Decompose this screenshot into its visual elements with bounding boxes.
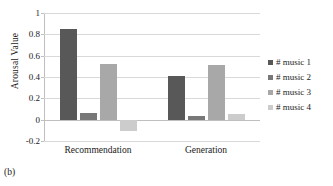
bar — [168, 76, 185, 120]
gridline — [44, 141, 260, 142]
y-tick-mark — [41, 13, 44, 14]
y-tick-label: 1 — [36, 9, 41, 18]
bar — [228, 114, 245, 120]
legend-label: # music 4 — [276, 103, 311, 112]
bar — [188, 116, 205, 120]
legend-item[interactable]: # music 2 — [268, 70, 332, 85]
y-tick-mark — [41, 141, 44, 142]
y-tick-label: -0.2 — [26, 137, 40, 146]
y-tick-mark — [41, 77, 44, 78]
y-tick-label: 0.4 — [29, 73, 40, 82]
legend-item[interactable]: # music 4 — [268, 100, 332, 115]
bar — [100, 64, 117, 119]
y-tick-label: 0.2 — [29, 94, 40, 103]
y-tick-mark — [41, 120, 44, 121]
legend-swatch-icon — [268, 105, 273, 110]
y-axis-title: Arousal Value — [9, 17, 21, 105]
y-tick-label: 0 — [36, 115, 41, 124]
y-tick-mark — [41, 56, 44, 57]
legend-label: # music 3 — [276, 88, 311, 97]
cropped-title — [30, 0, 230, 4]
legend-swatch-icon — [268, 60, 273, 65]
legend-label: # music 1 — [276, 58, 311, 67]
legend-item[interactable]: # music 1 — [268, 55, 332, 70]
legend-label: # music 2 — [276, 73, 311, 82]
legend-item[interactable]: # music 3 — [268, 85, 332, 100]
figure-caption: (b) — [4, 167, 15, 178]
bar — [60, 29, 77, 120]
y-tick-mark — [41, 34, 44, 35]
legend-swatch-icon — [268, 90, 273, 95]
x-axis-label-1: Generation — [185, 145, 227, 155]
gridline — [44, 120, 260, 121]
x-axis-label-0: Recommendation — [64, 145, 131, 155]
gridline — [44, 13, 260, 14]
y-tick-mark — [41, 98, 44, 99]
bar — [80, 113, 97, 119]
figure-panel: Arousal Value 10.80.60.40.20-0.2 Recomme… — [0, 0, 333, 186]
bar — [120, 120, 137, 132]
legend-swatch-icon — [268, 75, 273, 80]
y-tick-label: 0.8 — [29, 30, 40, 39]
legend: # music 1# music 2# music 3# music 4 — [268, 55, 332, 115]
plot-area: 10.80.60.40.20-0.2 RecommendationGenerat… — [44, 13, 260, 141]
y-tick-label: 0.6 — [29, 51, 40, 60]
bar — [208, 65, 225, 120]
